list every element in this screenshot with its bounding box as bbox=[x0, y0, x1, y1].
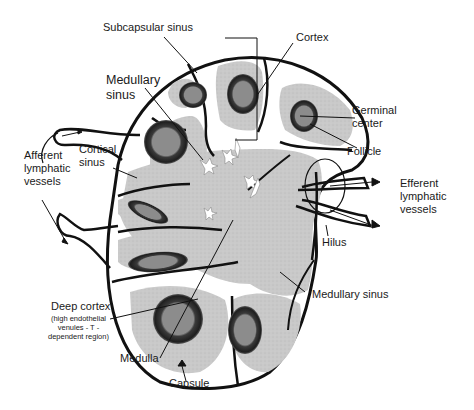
label-medullary-sinus-bottom: Medullary sinus bbox=[312, 288, 388, 301]
label-germinal-center: Germinal center bbox=[352, 104, 397, 130]
label-deep-cortex-note: (high endothelial venules - T - dependen… bbox=[48, 314, 109, 341]
label-afferent-lymphatic-vessels: Afferent lymphatic vessels bbox=[24, 149, 70, 188]
label-capsule: Capsule bbox=[169, 377, 209, 390]
label-hilus: Hilus bbox=[322, 236, 346, 249]
label-cortex: Cortex bbox=[296, 31, 328, 44]
label-efferent-lymphatic-vessels: Efferent lymphatic vessels bbox=[400, 177, 446, 216]
label-cortical-sinus: Cortical sinus bbox=[79, 143, 116, 169]
label-subcapsular-sinus: Subcapsular sinus bbox=[103, 21, 193, 34]
label-deep-cortex: Deep cortex bbox=[51, 300, 110, 313]
label-medulla: Medulla bbox=[120, 352, 159, 365]
label-follicle: Follicle bbox=[347, 145, 381, 158]
label-medullary-sinus-top: Medullary sinus bbox=[106, 73, 160, 103]
